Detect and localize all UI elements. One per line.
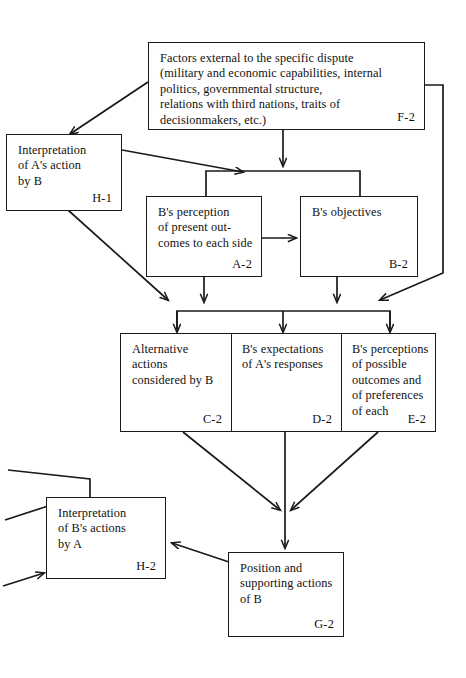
- b-objectives-text: B's objectives: [312, 205, 411, 220]
- edge-f2-to-h1: [70, 82, 148, 134]
- external-factors-text: Factors external to the specific dispute…: [160, 51, 418, 128]
- bracket-a2-b2: [206, 171, 360, 196]
- interpretation-of-a-action-by-b-box[interactable]: Interpretation of A's action by B H-1: [6, 134, 122, 211]
- stub-bottom-into-h2: [3, 573, 44, 586]
- edge-g2-to-h2: [172, 543, 229, 562]
- b-perception-of-present-outcomes-text: B's perception of present out- comes to …: [158, 205, 255, 251]
- b-expectations-tag: D-2: [312, 412, 332, 427]
- external-factors-box[interactable]: Factors external to the specific dispute…: [148, 42, 425, 130]
- b-perception-of-present-outcomes-box[interactable]: B's perception of present out- comes to …: [146, 196, 262, 277]
- b-perceptions-text: B's perceptions of possible outcomes and…: [352, 342, 429, 419]
- b-perception-of-present-outcomes-tag: A-2: [232, 257, 252, 272]
- stub-top-into-h2: [8, 470, 90, 497]
- flow-diagram: Factors external to the specific dispute…: [0, 0, 466, 678]
- position-and-supporting-actions-tag: G-2: [314, 617, 334, 632]
- position-and-supporting-actions-of-b-box[interactable]: Position and supporting actions of B G-2: [228, 552, 344, 637]
- options-expectations-outcomes-box: Alternative actions considered by B C-2 …: [120, 333, 436, 432]
- edge-h1-to-bracket: [122, 150, 243, 172]
- b-perceptions-of-possible-outcomes-cell[interactable]: B's perceptions of possible outcomes and…: [341, 334, 435, 431]
- interpretation-of-a-action-by-b-text: Interpretation of A's action by B: [18, 143, 115, 189]
- b-expectations-text: B's expectations of A's responses: [242, 342, 335, 373]
- interpretation-of-b-actions-by-a-box[interactable]: Interpretation of B's actions by A H-2: [46, 497, 166, 579]
- position-and-supporting-actions-text: Position and supporting actions of B: [240, 561, 337, 607]
- external-factors-tag: F-2: [397, 110, 415, 125]
- b-perceptions-tag: E-2: [408, 412, 426, 427]
- b-objectives-box[interactable]: B's objectives B-2: [300, 196, 418, 277]
- alternative-actions-text: Alternative actions considered by B: [132, 342, 225, 388]
- edge-e2-to-merge: [291, 432, 378, 510]
- alternative-actions-considered-by-b-cell[interactable]: Alternative actions considered by B C-2: [121, 334, 231, 431]
- interpretation-of-b-actions-by-a-text: Interpretation of B's actions by A: [58, 506, 159, 552]
- alternative-actions-tag: C-2: [203, 412, 222, 427]
- interpretation-of-b-actions-by-a-tag: H-2: [136, 559, 156, 574]
- interpretation-of-a-action-by-b-tag: H-1: [92, 191, 112, 206]
- stub-middle-to-h2: [5, 506, 48, 520]
- b-expectations-of-a-responses-cell[interactable]: B's expectations of A's responses D-2: [231, 334, 341, 431]
- b-objectives-tag: B-2: [389, 257, 408, 272]
- edge-c2-to-merge: [183, 432, 280, 510]
